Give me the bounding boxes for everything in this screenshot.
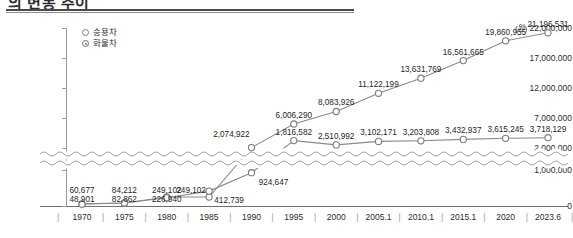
data-point[interactable] [248,170,254,176]
data-label-truck: 3,718,129 [530,125,566,134]
legend-label-passenger: 승용차 [93,27,117,38]
dot-circle-icon [82,40,89,47]
data-label-truck: 412,739 [214,196,244,205]
data-point[interactable] [206,194,212,200]
data-label-passenger: 6,006,290 [276,111,312,120]
data-point[interactable] [545,30,551,36]
data-label-passenger: 8,083,926 [318,98,354,107]
data-point[interactable] [375,138,381,144]
data-label-truck: 2,510,992 [318,132,354,141]
data-point[interactable] [503,135,509,141]
data-point[interactable] [248,145,254,151]
data-label-truck: 82,862 [112,195,137,204]
data-point[interactable] [460,58,466,64]
data-label-passenger: 11,122,199 [358,80,398,89]
data-point[interactable] [291,121,297,127]
data-point[interactable] [333,142,339,148]
series-line-passenger [82,33,548,204]
data-point[interactable] [291,138,297,144]
data-point[interactable] [375,90,381,96]
legend-label-truck: 화물차 [93,38,117,49]
data-label-passenger: 249,102 [176,186,206,195]
data-point[interactable] [460,136,466,142]
data-point[interactable] [503,38,509,44]
data-label-passenger: 13,631,769 [400,65,441,74]
legend-item-truck[interactable]: 화물차 [82,38,117,49]
data-label-truck: 3,102,171 [360,128,396,137]
data-label-truck: 924,647 [259,178,289,187]
data-label-passenger: 21,196,531 [528,20,569,29]
data-point[interactable] [545,135,551,141]
data-label-passenger: 16,561,665 [443,48,484,57]
data-label-truck: 3,615,245 [487,125,523,134]
data-label-truck: 48,901 [69,195,94,204]
data-point[interactable] [418,75,424,81]
legend: 승용차 화물차 [82,27,117,49]
legend-item-passenger[interactable]: 승용차 [82,27,117,38]
data-label-truck: 3,203,808 [403,128,439,137]
data-label-truck: 226,940 [152,195,182,204]
data-point[interactable] [206,188,212,194]
data-label-truck: 1,816,582 [276,128,312,137]
data-label-passenger: 2,074,922 [213,130,249,139]
hollow-circle-icon [82,29,89,36]
data-label-truck: 3,432,937 [445,126,481,135]
data-label-passenger: 19,860,955 [485,28,526,37]
data-point[interactable] [333,108,339,114]
data-label-passenger: 60,677 [69,186,94,195]
data-point[interactable] [418,138,424,144]
data-label-passenger: 84,212 [112,186,137,195]
